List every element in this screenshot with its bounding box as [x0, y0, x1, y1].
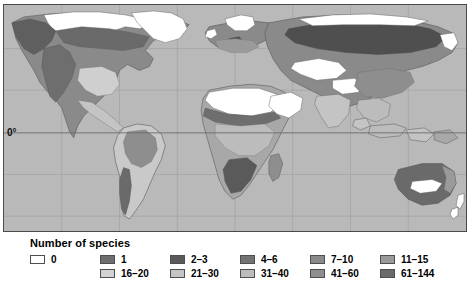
figure-root: 0° Number of species 0 1 2–3 4–6: [0, 0, 472, 285]
legend-swatch-3: [240, 255, 255, 264]
world-map-panel: 0°: [3, 4, 467, 232]
legend-label-1: 1: [121, 255, 127, 265]
legend-label-9: 41–60: [331, 269, 359, 279]
legend-item-9: 41–60: [310, 267, 359, 280]
legend-item-5: 11–15: [380, 253, 428, 266]
legend-swatch-7: [170, 269, 185, 278]
legend-item-10: 61–144: [380, 267, 434, 280]
legend-item-0: 0: [30, 253, 57, 266]
legend-label-5: 11–15: [401, 255, 428, 265]
legend-item-6: 16–20: [100, 267, 149, 280]
legend-item-4: 7–10: [310, 253, 353, 266]
legend-label-8: 31–40: [261, 269, 289, 279]
legend-label-6: 16–20: [121, 269, 149, 279]
legend-title: Number of species: [30, 237, 130, 249]
legend-row-1: 0 1 2–3 4–6 7–10 11–15: [0, 253, 472, 266]
legend-item-7: 21–30: [170, 267, 219, 280]
legend-swatch-10: [380, 269, 395, 278]
equator-label: 0°: [7, 127, 17, 138]
legend-item-2: 2–3: [170, 253, 208, 266]
legend-label-10: 61–144: [401, 269, 434, 279]
legend-swatch-0: [30, 255, 45, 264]
legend-label-4: 7–10: [331, 255, 353, 265]
legend-item-8: 31–40: [240, 267, 289, 280]
legend-swatch-8: [240, 269, 255, 278]
legend-swatch-4: [310, 255, 325, 264]
world-map-svg: [4, 5, 466, 231]
legend-item-1: 1: [100, 253, 127, 266]
legend-label-7: 21–30: [191, 269, 219, 279]
legend-label-2: 2–3: [191, 255, 208, 265]
legend-label-3: 4–6: [261, 255, 278, 265]
legend: Number of species 0 1 2–3 4–6 7–10: [0, 234, 472, 285]
legend-label-0: 0: [51, 255, 57, 265]
legend-swatch-5: [380, 255, 395, 264]
legend-swatch-9: [310, 269, 325, 278]
legend-swatch-1: [100, 255, 115, 264]
legend-row-2: 16–20 21–30 31–40 41–60 61–144: [0, 267, 472, 280]
legend-swatch-2: [170, 255, 185, 264]
legend-swatch-6: [100, 269, 115, 278]
map-canvas: 0°: [4, 5, 466, 231]
legend-item-3: 4–6: [240, 253, 278, 266]
